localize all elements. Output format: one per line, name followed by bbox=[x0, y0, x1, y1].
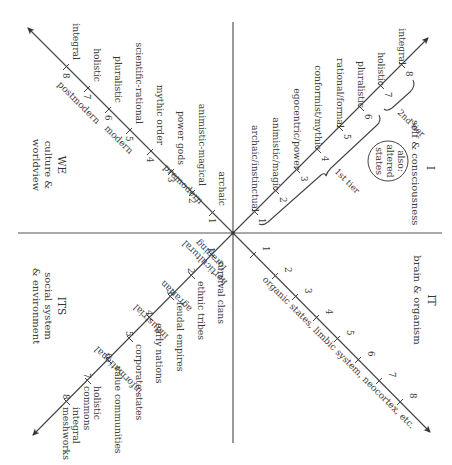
ul-stage-1: archaic bbox=[217, 172, 228, 207]
ul-tick-6: 6 bbox=[103, 115, 113, 120]
lr-tick-2: 2 bbox=[283, 267, 293, 272]
ur-tick-2: 2 bbox=[278, 197, 288, 202]
lr-tick-7: 7 bbox=[387, 372, 397, 377]
quadrant-code-I: I bbox=[425, 166, 437, 170]
ul-tick-8: 8 bbox=[61, 73, 71, 78]
four-quadrants-diagram: 1 2 3 4 5 6 7 8 archaic/instinctual anim… bbox=[0, 0, 452, 465]
ur-tick-1: 1 bbox=[257, 218, 267, 223]
ur-tick-3: 3 bbox=[299, 176, 309, 181]
note-line-1: also: bbox=[396, 150, 407, 172]
ll-stage-8b: meshworks bbox=[61, 407, 72, 460]
quadrant-upper-right: 1 2 3 4 5 6 7 8 archaic/instinctual anim… bbox=[250, 28, 437, 225]
note-line-2: altered bbox=[385, 144, 396, 177]
ll-tick-5: 5 bbox=[124, 331, 134, 336]
ur-stage-5: rational/formal bbox=[335, 58, 346, 128]
ul-stage-6: pluralistic bbox=[113, 56, 124, 103]
ul-stage-7: holistic bbox=[92, 48, 103, 82]
tier-label-1st: 1st tier bbox=[333, 166, 363, 196]
ul-stage-8: integral bbox=[71, 23, 82, 60]
quadrant-caption-ITS-1: social system bbox=[43, 272, 54, 340]
ll-stage-2: ethnic tribes bbox=[196, 281, 207, 340]
altered-states-note: also: altered states bbox=[368, 141, 408, 181]
ur-tick-5: 5 bbox=[342, 134, 352, 139]
origin-dot bbox=[231, 231, 235, 235]
quadrant-code-ITS: ITS bbox=[56, 297, 68, 315]
ul-stage-2: animistic-magical bbox=[197, 104, 208, 186]
lr-tick-6: 6 bbox=[366, 351, 376, 356]
quadrant-code-WE: WE bbox=[56, 156, 68, 174]
ll-stage-7b: commons bbox=[82, 386, 93, 431]
ur-tick-8: 8 bbox=[404, 71, 414, 76]
lr-tick-3: 3 bbox=[303, 288, 313, 293]
ul-tick-1: 1 bbox=[207, 218, 217, 223]
lr-tick-5: 5 bbox=[345, 330, 355, 335]
ur-tick-7: 7 bbox=[383, 92, 393, 97]
quadrant-caption-WE-1: culture & bbox=[43, 141, 54, 190]
ur-stage-6: pluralistic bbox=[356, 61, 367, 108]
lr-tick-8: 8 bbox=[408, 393, 418, 398]
diagonal-upper-right bbox=[233, 38, 428, 233]
quadrant-upper-left: 1 2 3 4 5 6 7 8 archaic animistic-magica… bbox=[31, 23, 228, 223]
ur-stage-8: integral bbox=[397, 28, 408, 65]
note-line-3: states bbox=[374, 147, 385, 175]
ul-stage-4: mythic order bbox=[155, 85, 166, 146]
quadrant-caption-I: self & consciousness bbox=[410, 120, 421, 225]
ul-stage-3: power gods bbox=[176, 111, 187, 165]
ll-tick-7: 7 bbox=[82, 373, 92, 378]
ur-stage-7: holistic bbox=[376, 52, 387, 86]
quadrant-caption-IT: brain & organism bbox=[412, 255, 423, 345]
ur-stage-2: animistic/magic bbox=[271, 117, 282, 191]
ur-tick-6: 6 bbox=[363, 114, 373, 119]
lr-tick-4: 4 bbox=[324, 309, 334, 315]
ll-tick-2: 2 bbox=[186, 268, 196, 273]
lr-line-label: organic states, limbic system, neocortex… bbox=[261, 274, 418, 431]
ur-tick-4: 4 bbox=[320, 156, 330, 162]
ur-stage-3: egocentric/power bbox=[292, 88, 303, 170]
quadrant-lower-left: 1 2 3 4 5 6 7 8 survival clans ethnic tr… bbox=[31, 238, 229, 461]
lr-tick-1: 1 bbox=[261, 246, 271, 251]
ul-stage-5: scientific-rational bbox=[134, 42, 145, 124]
ul-tick-4: 4 bbox=[145, 157, 155, 163]
ul-era-postmodern: postmodern bbox=[56, 79, 103, 126]
quadrant-caption-WE-2: worldview bbox=[31, 139, 42, 192]
quadrant-code-IT: IT bbox=[426, 294, 438, 305]
ur-stage-1: archaic/instinctual bbox=[250, 125, 261, 212]
ll-tick-8: 8 bbox=[61, 394, 71, 399]
quadrant-lower-right: 1 2 3 4 5 6 7 8 organic states, limbic s… bbox=[250, 246, 438, 431]
quadrant-caption-ITS-2: & environment bbox=[31, 268, 42, 344]
ur-stage-4: conformist/mythic bbox=[313, 65, 324, 150]
